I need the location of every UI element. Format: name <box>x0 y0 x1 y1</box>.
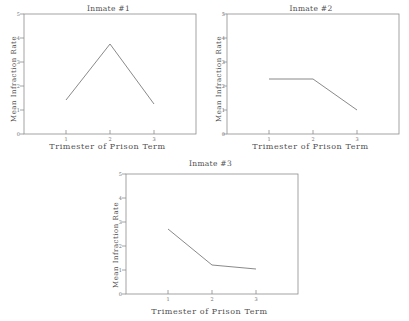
y-tick-marks-inmate-3 <box>122 174 126 294</box>
chart-panel-inmate-2: Inmate #2 Mean Infraction Rate Trimester… <box>205 0 409 155</box>
x-tick-marks-inmate-2 <box>269 130 357 134</box>
data-line-inmate-1 <box>66 44 154 104</box>
plot-frame-inmate-1 <box>24 14 196 134</box>
data-line-inmate-3 <box>168 229 256 269</box>
x-tick-marks-inmate-3 <box>168 290 256 294</box>
y-tick-marks-inmate-1 <box>20 14 24 134</box>
data-line-inmate-2 <box>269 79 357 110</box>
plot-frame-inmate-2 <box>227 14 399 134</box>
x-tick-marks-inmate-1 <box>66 130 154 134</box>
plot-area-inmate-2 <box>205 0 409 155</box>
plot-frame-inmate-3 <box>126 174 298 294</box>
chart-panel-inmate-3: Inmate #3 Mean Infraction Rate Trimester… <box>102 155 307 321</box>
plot-area-inmate-1 <box>0 0 205 155</box>
chart-panel-inmate-1: Inmate #1 Mean Infraction Rate Trimester… <box>0 0 205 155</box>
y-tick-marks-inmate-2 <box>223 14 227 134</box>
plot-area-inmate-3 <box>102 155 307 321</box>
